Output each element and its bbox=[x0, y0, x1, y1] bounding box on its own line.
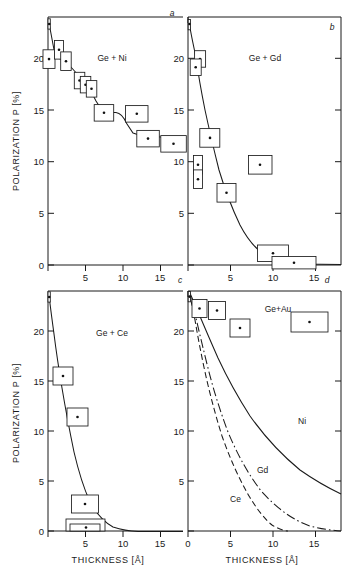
panel-c-xticklabels: 5 10 15 bbox=[83, 538, 165, 549]
xtick-10: 10 bbox=[268, 272, 279, 283]
xtick-10: 10 bbox=[118, 272, 129, 283]
ytick-20: 20 bbox=[33, 53, 44, 64]
ytick-10: 10 bbox=[33, 156, 44, 167]
panel-b-xticklabels: 5 10 15 bbox=[228, 272, 319, 283]
curve-label-ce: Ce bbox=[230, 494, 241, 504]
ytick-5: 5 bbox=[39, 476, 44, 487]
panel-a-yticklabels: 0 5 10 15 20 bbox=[33, 53, 44, 271]
xtick-15: 15 bbox=[155, 272, 166, 283]
xtick-10: 10 bbox=[118, 538, 129, 549]
panel-b-letter: b bbox=[330, 22, 335, 32]
panel-a-letter: a bbox=[170, 8, 175, 18]
panel-a-xticklabels: 5 10 15 bbox=[83, 272, 165, 283]
panel-d-letter: d bbox=[325, 275, 330, 285]
xtick-5: 5 bbox=[228, 272, 233, 283]
panel-b: 5 10 15 20 5 10 15 Ge + Gd b bbox=[173, 17, 341, 283]
panel-b-series-label: Ge + Gd bbox=[249, 53, 282, 63]
ytick-5: 5 bbox=[39, 208, 44, 219]
ytick-0: 0 bbox=[39, 526, 44, 537]
panel-d: 5 10 15 20 0 5 10 15 THICKNESS [Å] Ge+Au… bbox=[173, 291, 341, 565]
ytick-15: 15 bbox=[33, 376, 44, 387]
panel-c-yticks bbox=[48, 331, 54, 531]
xtick-5: 5 bbox=[228, 538, 233, 549]
panel-c-letter: c bbox=[178, 275, 183, 285]
xtick-0: 0 bbox=[185, 538, 190, 549]
ytick-15: 15 bbox=[33, 105, 44, 116]
xtick-10: 10 bbox=[268, 538, 279, 549]
panel-d-yticks bbox=[188, 331, 341, 531]
curve-label-ni: Ni bbox=[298, 416, 306, 426]
xtick-5: 5 bbox=[83, 538, 88, 549]
ytick-10: 10 bbox=[33, 426, 44, 437]
panel-c-yaxis-title: POLARIZATION P [%] bbox=[11, 363, 21, 463]
ytick-15: 15 bbox=[173, 105, 184, 116]
panel-a: 0 5 10 15 20 5 10 15 POLARIZATION P [%] … bbox=[11, 8, 186, 283]
ytick-10: 10 bbox=[173, 426, 184, 437]
ytick-15: 15 bbox=[173, 376, 184, 387]
figure-panel-grid: 0 5 10 15 20 5 10 15 POLARIZATION P [%] … bbox=[0, 0, 363, 577]
ytick-0: 0 bbox=[39, 260, 44, 271]
curve-label-gd: Gd bbox=[257, 465, 269, 475]
figure-svg: 0 5 10 15 20 5 10 15 POLARIZATION P [%] … bbox=[0, 0, 363, 577]
xtick-15: 15 bbox=[309, 538, 320, 549]
ytick-5: 5 bbox=[179, 476, 184, 487]
panel-c: 0 5 10 15 20 5 10 15 POLARIZATION P [%] … bbox=[11, 291, 183, 565]
panel-a-xticks bbox=[48, 265, 161, 271]
panel-c-xaxis-title: THICKNESS [Å] bbox=[72, 555, 145, 565]
panel-a-yaxis-title: POLARIZATION P [%] bbox=[11, 91, 21, 191]
panel-d-xticklabels: 0 5 10 15 bbox=[185, 538, 319, 549]
xtick-5: 5 bbox=[83, 272, 88, 283]
panel-c-yticklabels: 0 5 10 15 20 bbox=[33, 326, 44, 537]
ytick-20: 20 bbox=[173, 53, 184, 64]
panel-d-xaxis-title: THICKNESS [Å] bbox=[226, 555, 299, 565]
panel-a-yticks bbox=[48, 58, 54, 265]
panel-d-yticklabels: 5 10 15 20 bbox=[173, 326, 184, 487]
panel-d-series-label: Ge+Au bbox=[265, 304, 292, 314]
panel-a-series-label: Ge + Ni bbox=[97, 53, 126, 63]
xtick-15: 15 bbox=[309, 272, 320, 283]
ytick-10: 10 bbox=[173, 156, 184, 167]
ytick-20: 20 bbox=[173, 326, 184, 337]
ytick-5: 5 bbox=[179, 208, 184, 219]
xtick-15: 15 bbox=[155, 538, 166, 549]
panel-a-datapoints bbox=[43, 19, 186, 152]
ytick-20: 20 bbox=[33, 326, 44, 337]
panel-c-series-label: Ge + Ce bbox=[96, 328, 128, 338]
panel-d-datapoints bbox=[188, 292, 328, 338]
